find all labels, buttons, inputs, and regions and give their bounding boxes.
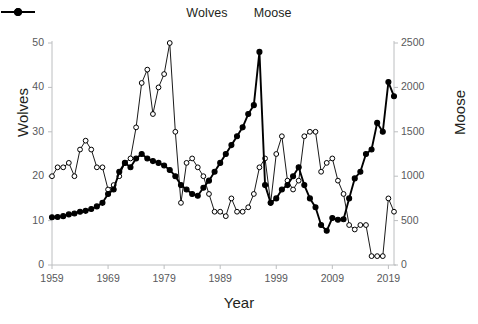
plot-area bbox=[0, 0, 478, 324]
filled-circle-marker bbox=[156, 160, 161, 165]
filled-circle-marker bbox=[122, 160, 127, 165]
filled-circle-marker bbox=[100, 200, 105, 205]
open-circle-marker bbox=[162, 72, 167, 77]
filled-circle-marker bbox=[347, 196, 352, 201]
filled-circle-marker bbox=[392, 94, 397, 99]
filled-circle-marker bbox=[117, 169, 122, 174]
open-circle-marker bbox=[302, 134, 307, 139]
filled-circle-marker bbox=[61, 214, 66, 219]
open-circle-marker bbox=[128, 156, 133, 161]
open-circle-marker bbox=[296, 178, 301, 183]
open-circle-marker bbox=[66, 160, 71, 165]
filled-circle-marker bbox=[173, 174, 178, 179]
open-circle-marker bbox=[246, 205, 251, 210]
filled-circle-marker bbox=[352, 176, 357, 181]
filled-circle-marker bbox=[190, 191, 195, 196]
filled-circle-marker bbox=[128, 165, 133, 170]
filled-circle-marker bbox=[72, 211, 77, 216]
filled-circle-marker bbox=[380, 129, 385, 134]
open-circle-marker bbox=[173, 129, 178, 134]
filled-circle-marker bbox=[358, 169, 363, 174]
filled-circle-marker bbox=[279, 187, 284, 192]
filled-circle-marker bbox=[319, 223, 324, 228]
open-circle-marker bbox=[251, 192, 256, 197]
filled-circle-marker bbox=[235, 134, 240, 139]
open-circle-marker bbox=[336, 178, 341, 183]
filled-circle-marker bbox=[296, 165, 301, 170]
filled-circle-marker bbox=[291, 174, 296, 179]
filled-circle-marker bbox=[285, 183, 290, 188]
filled-circle-marker bbox=[341, 217, 346, 222]
filled-circle-marker bbox=[139, 152, 144, 157]
filled-circle-marker bbox=[106, 191, 111, 196]
filled-circle-marker bbox=[178, 183, 183, 188]
open-circle-marker bbox=[195, 165, 200, 170]
series-line bbox=[52, 43, 394, 256]
open-circle-marker bbox=[89, 147, 94, 152]
open-circle-marker bbox=[240, 209, 245, 214]
filled-circle-marker bbox=[83, 208, 88, 213]
filled-circle-marker bbox=[66, 212, 71, 217]
open-circle-marker bbox=[375, 254, 380, 259]
filled-circle-marker bbox=[55, 215, 60, 220]
open-circle-marker bbox=[72, 174, 77, 179]
open-circle-marker bbox=[100, 165, 105, 170]
filled-circle-marker bbox=[223, 152, 228, 157]
filled-circle-marker bbox=[89, 207, 94, 212]
open-circle-marker bbox=[156, 85, 161, 90]
filled-circle-marker bbox=[150, 159, 155, 164]
open-circle-marker bbox=[347, 223, 352, 228]
open-circle-marker bbox=[61, 165, 66, 170]
filled-circle-marker bbox=[330, 215, 335, 220]
open-circle-marker bbox=[94, 165, 99, 170]
open-circle-marker bbox=[330, 156, 335, 161]
filled-circle-marker bbox=[251, 103, 256, 108]
open-circle-marker bbox=[380, 254, 385, 259]
series-moose bbox=[50, 49, 397, 233]
open-circle-marker bbox=[55, 165, 60, 170]
open-circle-marker bbox=[212, 209, 217, 214]
open-circle-marker bbox=[229, 196, 234, 201]
open-circle-marker bbox=[207, 192, 212, 197]
open-circle-marker bbox=[308, 129, 313, 134]
open-circle-marker bbox=[145, 67, 150, 72]
open-circle-marker bbox=[201, 174, 206, 179]
series-wolves bbox=[50, 41, 397, 259]
filled-circle-marker bbox=[313, 205, 318, 210]
filled-circle-marker bbox=[50, 215, 55, 220]
open-circle-marker bbox=[218, 209, 223, 214]
filled-circle-marker bbox=[324, 228, 329, 233]
open-circle-marker bbox=[358, 223, 363, 228]
filled-circle-marker bbox=[363, 152, 368, 157]
filled-circle-marker bbox=[369, 147, 374, 152]
open-circle-marker bbox=[83, 138, 88, 143]
filled-circle-marker bbox=[145, 156, 150, 161]
open-circle-marker bbox=[257, 165, 262, 170]
open-circle-marker bbox=[223, 214, 228, 219]
open-circle-marker bbox=[341, 192, 346, 197]
filled-circle-marker bbox=[268, 200, 273, 205]
filled-circle-marker bbox=[195, 193, 200, 198]
open-circle-marker bbox=[319, 169, 324, 174]
open-circle-marker bbox=[190, 156, 195, 161]
filled-circle-marker bbox=[201, 185, 206, 190]
filled-circle-marker bbox=[167, 167, 172, 172]
filled-circle-marker bbox=[218, 160, 223, 165]
chart-root: Wolves Moose Wolves Moose Year 010203040… bbox=[0, 0, 478, 324]
filled-circle-marker bbox=[78, 209, 83, 214]
filled-circle-marker bbox=[229, 143, 234, 148]
filled-circle-marker bbox=[263, 183, 268, 188]
open-circle-marker bbox=[184, 160, 189, 165]
filled-circle-marker bbox=[94, 204, 99, 209]
open-circle-marker bbox=[352, 227, 357, 232]
open-circle-marker bbox=[369, 254, 374, 259]
open-circle-marker bbox=[386, 196, 391, 201]
filled-circle-marker bbox=[162, 163, 167, 168]
filled-circle-marker bbox=[307, 196, 312, 201]
open-circle-marker bbox=[235, 209, 240, 214]
open-circle-marker bbox=[291, 187, 296, 192]
filled-circle-marker bbox=[134, 156, 139, 161]
filled-circle-marker bbox=[375, 120, 380, 125]
filled-circle-marker bbox=[111, 187, 116, 192]
open-circle-marker bbox=[324, 160, 329, 165]
